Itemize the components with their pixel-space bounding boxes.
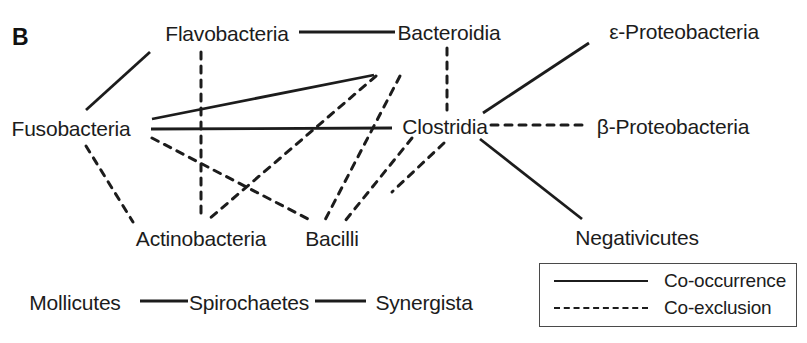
node-label-clostridia: Clostridia [402, 115, 488, 138]
node-clostridia[interactable]: Clostridia [402, 116, 488, 137]
node-label-actinobacteria: Actinobacteria [136, 227, 266, 250]
node-label-bacteroidia: Bacteroidia [398, 21, 501, 44]
legend-box: Co-occurrence Co-exclusion [539, 263, 797, 327]
node-label-spirochaetes: Spirochaetes [189, 291, 309, 314]
legend-swatch-dashed-line [554, 307, 648, 309]
edge-clostridia-eproteobacteria [483, 43, 589, 113]
legend-item-co-occurrence: Co-occurrence [554, 268, 786, 294]
edge-fusobacteria-bacteroidia [152, 75, 374, 119]
node-actinobacteria[interactable]: Actinobacteria [136, 228, 266, 249]
legend-label-co-occurrence: Co-occurrence [664, 270, 786, 292]
node-flavobacteria[interactable]: Flavobacteria [165, 23, 288, 44]
edge-fusobacteria-flavobacteria [86, 52, 150, 110]
node-label-flavobacteria: Flavobacteria [165, 22, 288, 45]
node-spirochaetes[interactable]: Spirochaetes [189, 292, 309, 313]
node-label-synergista: Synergista [375, 291, 472, 314]
legend-label-co-exclusion: Co-exclusion [664, 297, 771, 319]
edge-fusobacteria-clostridia [151, 128, 392, 129]
edge-bacteroidia-actinobacteria [208, 76, 376, 220]
edge-clostridia-negativicutes [392, 143, 444, 192]
node-mollicutes[interactable]: Mollicutes [29, 292, 120, 313]
legend-item-co-exclusion: Co-exclusion [554, 295, 771, 321]
edge-fusobacteria-actinobacteria [86, 146, 133, 222]
edge-clostridia-bacilli [345, 138, 412, 221]
edge-clostridia-negativicutes [480, 139, 582, 219]
node-label-negativicutes: Negativicutes [575, 226, 698, 249]
node-fusobacteria[interactable]: Fusobacteria [12, 118, 131, 139]
node-synergista[interactable]: Synergista [375, 292, 472, 313]
node-label-eproteobacteria: ε-Proteobacteria [609, 20, 759, 43]
node-label-mollicutes: Mollicutes [29, 291, 120, 314]
node-label-bacilli: Bacilli [305, 227, 358, 250]
node-bproteobacteria[interactable]: β-Proteobacteria [597, 116, 749, 137]
node-bacilli[interactable]: Bacilli [305, 228, 358, 249]
network-figure-panel-b: B FlavobacteriaBacteroidiaε-Proteobacter… [0, 0, 807, 343]
node-label-bproteobacteria: β-Proteobacteria [597, 115, 749, 138]
legend-swatch-solid-line [554, 280, 648, 282]
node-bacteroidia[interactable]: Bacteroidia [398, 22, 501, 43]
node-eproteobacteria[interactable]: ε-Proteobacteria [609, 21, 759, 42]
node-label-fusobacteria: Fusobacteria [12, 117, 131, 140]
node-negativicutes[interactable]: Negativicutes [575, 227, 698, 248]
